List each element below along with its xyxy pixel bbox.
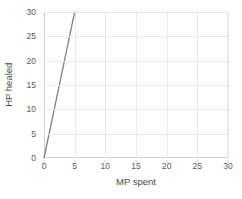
x-axis-tick-label: 25 bbox=[193, 162, 202, 171]
chart-container: HP healed 051015202530 051015202530 MP s… bbox=[0, 0, 242, 199]
x-axis-tick-label: 5 bbox=[72, 162, 77, 171]
x-axis-tick-label: 20 bbox=[162, 162, 171, 171]
gridline-vertical bbox=[167, 12, 168, 158]
x-axis-tick-label: 15 bbox=[131, 162, 140, 171]
x-axis-tick-label: 30 bbox=[223, 162, 232, 171]
gridline-vertical bbox=[75, 12, 76, 158]
x-axis-tick-label: 10 bbox=[101, 162, 110, 171]
y-axis-tick-label: 25 bbox=[27, 32, 36, 41]
plot-area bbox=[44, 12, 228, 158]
y-axis-tick-label: 30 bbox=[27, 8, 36, 17]
x-axis-tick-label: 0 bbox=[42, 162, 47, 171]
y-axis-tick-labels: 051015202530 bbox=[0, 12, 40, 158]
x-axis-tick-labels: 051015202530 bbox=[44, 160, 228, 174]
y-axis-tick-label: 0 bbox=[31, 154, 36, 163]
y-axis-tick-label: 20 bbox=[27, 56, 36, 65]
gridline-vertical bbox=[228, 12, 229, 158]
gridline-vertical bbox=[136, 12, 137, 158]
y-axis-tick-label: 15 bbox=[27, 81, 36, 90]
gridline-vertical bbox=[105, 12, 106, 158]
gridline-vertical bbox=[197, 12, 198, 158]
y-axis-tick-label: 5 bbox=[31, 129, 36, 138]
x-axis-title: MP spent bbox=[44, 177, 228, 187]
y-axis-tick-label: 10 bbox=[27, 105, 36, 114]
